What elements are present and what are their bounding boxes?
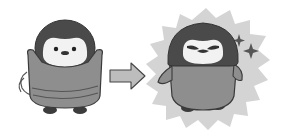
illustration-scene: Before and after illustration of a baby … [0, 0, 284, 134]
right-eye [72, 47, 76, 51]
illustration-canvas [0, 0, 284, 134]
left-eye [54, 47, 58, 51]
penguin-before [19, 20, 102, 114]
beak [61, 51, 69, 55]
penguin-after [146, 8, 270, 130]
arrow-right-icon [110, 63, 145, 89]
